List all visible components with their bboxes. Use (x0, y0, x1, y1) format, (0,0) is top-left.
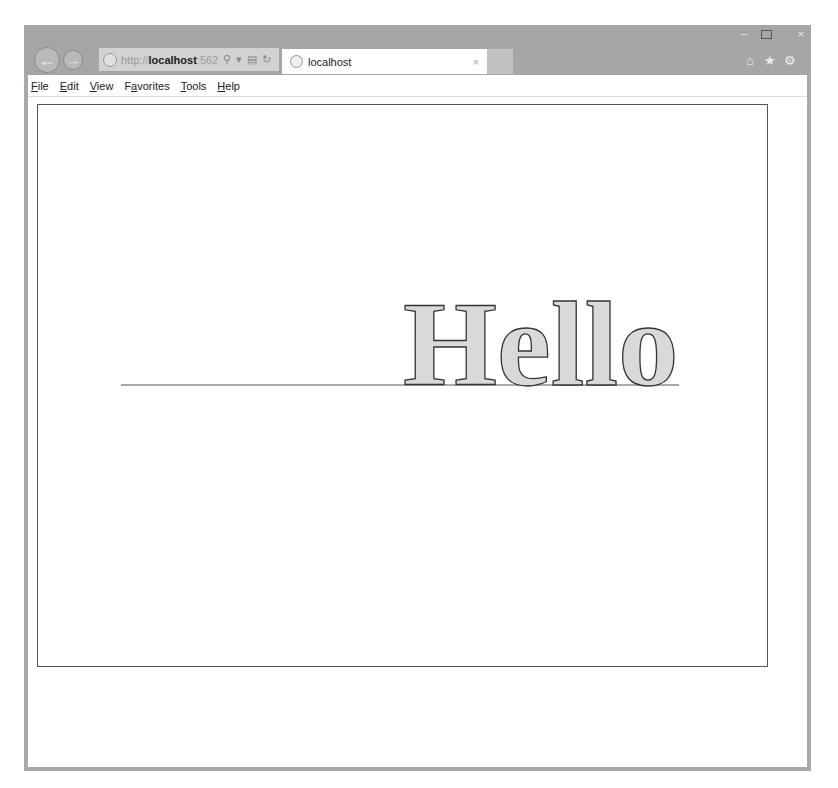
home-icon[interactable]: ⌂ (746, 53, 754, 68)
url-host: localhost (149, 54, 197, 66)
menu-accel: V (90, 80, 97, 92)
minimize-icon[interactable]: – (741, 27, 747, 39)
title-bar: ← → http:// localhost :562 ⚲ ▾ ▤ ↻ local… (24, 25, 811, 75)
refresh-icon[interactable]: ↻ (262, 53, 271, 66)
menu-file[interactable]: File (31, 80, 49, 92)
menu-view[interactable]: View (90, 80, 114, 92)
compatibility-view-icon[interactable]: ▤ (247, 53, 257, 66)
menu-help[interactable]: Help (217, 80, 240, 92)
back-button[interactable]: ← (34, 47, 60, 73)
dropdown-icon[interactable]: ▾ (236, 53, 242, 66)
url-protocol: http:// (121, 54, 149, 66)
close-window-icon[interactable]: × (781, 28, 821, 40)
menu-label: iew (97, 80, 114, 92)
search-icon[interactable]: ⚲ (223, 53, 231, 66)
page-globe-icon (103, 53, 117, 67)
browser-window: ← → http:// localhost :562 ⚲ ▾ ▤ ↻ local… (24, 25, 811, 771)
menu-label: ile (38, 80, 49, 92)
drawing-canvas: Hello (37, 104, 768, 667)
menu-favorites[interactable]: Favorites (124, 80, 169, 92)
forward-button[interactable]: → (63, 50, 83, 70)
tab-localhost[interactable]: localhost × (282, 49, 487, 74)
menu-label: vorites (137, 80, 169, 92)
tab-globe-icon (290, 55, 303, 68)
menu-edit[interactable]: Edit (60, 80, 79, 92)
menu-bar: File Edit View Favorites Tools Help (28, 75, 807, 97)
close-tab-icon[interactable]: × (473, 56, 479, 68)
settings-gear-icon[interactable]: ⚙ (784, 53, 796, 68)
new-tab-button[interactable] (487, 49, 513, 74)
menu-accel: F (31, 80, 38, 92)
maximize-icon[interactable] (761, 30, 772, 39)
tab-title: localhost (308, 56, 351, 68)
menu-label: elp (225, 80, 240, 92)
forward-arrow-icon: → (67, 53, 80, 68)
page-content: Hello (28, 97, 807, 767)
canvas-svg: Hello (38, 105, 767, 666)
menu-tools[interactable]: Tools (181, 80, 207, 92)
menu-accel: E (60, 80, 67, 92)
menu-label: dit (67, 80, 79, 92)
hello-text: Hello (403, 277, 679, 411)
menu-label: ools (186, 80, 206, 92)
address-bar[interactable]: http:// localhost :562 ⚲ ▾ ▤ ↻ (99, 48, 279, 71)
back-arrow-icon: ← (38, 50, 56, 71)
favorites-star-icon[interactable]: ★ (764, 53, 776, 68)
url-port: :562 (197, 54, 218, 66)
